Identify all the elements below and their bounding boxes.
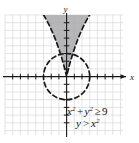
inequality-2-annotation: y>x2: [75, 117, 100, 129]
ineq1-x-exponent: 2: [72, 105, 76, 113]
ineq1-rhs-value: 9: [102, 105, 108, 117]
graph-figure: y x x2+y2≥9 y>x2: [0, 0, 139, 143]
x-axis-label: x: [129, 72, 134, 82]
ineq2-y-var: y: [75, 117, 81, 129]
y-axis-label: y: [63, 4, 68, 14]
ineq1-relation-sign: ≥: [95, 105, 101, 117]
coordinate-plane: y x x2+y2≥9 y>x2: [0, 0, 139, 143]
svg-text:y>x2: y>x2: [75, 117, 100, 129]
ineq1-plus-sign: +: [77, 105, 83, 117]
x-axis-arrow: [121, 74, 127, 79]
ineq1-y-exponent: 2: [90, 105, 94, 113]
ineq2-x-exponent: 2: [96, 117, 100, 125]
ineq2-relation-sign: >: [83, 117, 89, 129]
